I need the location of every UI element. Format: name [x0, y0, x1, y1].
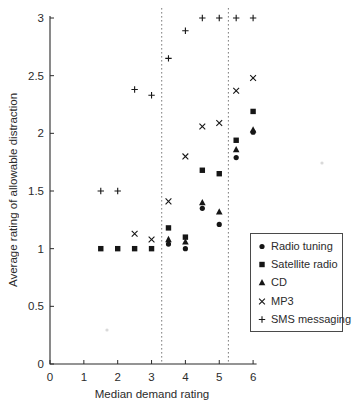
data-point — [98, 246, 103, 251]
data-point — [250, 15, 256, 21]
data-point — [216, 15, 222, 21]
data-point — [183, 154, 189, 160]
data-point — [217, 171, 222, 176]
series-radio-tuning — [166, 130, 256, 252]
data-point — [199, 199, 206, 205]
legend-label: SMS messaging — [271, 313, 351, 325]
data-point — [115, 188, 121, 194]
x-axis-label: Median demand rating — [50, 388, 254, 400]
y-tick-label: 3 — [38, 12, 44, 24]
series-satellite-radio — [98, 109, 256, 252]
y-tick-label: 2 — [38, 127, 44, 139]
data-point — [166, 241, 171, 246]
data-point — [98, 188, 104, 194]
data-point — [148, 92, 154, 98]
data-point — [199, 15, 205, 21]
x-tick-label: 5 — [216, 371, 222, 383]
plot-area: 012345600.511.522.53 — [0, 0, 352, 412]
scan-speck — [105, 328, 108, 331]
data-point — [132, 231, 138, 237]
y-tick-label: 1 — [38, 243, 44, 255]
legend-marker — [259, 262, 264, 267]
data-point — [165, 55, 171, 61]
square-legend-icon — [256, 258, 268, 270]
data-point — [233, 15, 239, 21]
x-cross-legend-icon — [256, 295, 268, 307]
series-cd — [165, 126, 256, 244]
axes — [50, 16, 257, 364]
scan-speck — [320, 161, 323, 164]
x-tick-label: 4 — [182, 371, 189, 383]
legend-label: MP3 — [271, 295, 294, 307]
legend-item: SMS messaging — [256, 311, 342, 326]
data-point — [166, 225, 171, 230]
y-axis-label: Average rating of allowable distraction — [5, 70, 21, 310]
legend-label: Satellite radio — [271, 258, 338, 270]
data-point — [233, 146, 240, 152]
legend-marker — [259, 279, 266, 285]
legend-item: Satellite radio — [256, 257, 342, 272]
data-point — [217, 222, 222, 227]
data-point — [132, 246, 137, 251]
legend-label: Radio tuning — [271, 240, 333, 252]
data-point — [216, 208, 223, 214]
data-point — [233, 88, 239, 94]
series-sms-messaging — [98, 15, 257, 194]
legend-marker — [259, 298, 265, 304]
data-point — [250, 109, 255, 114]
data-point — [165, 236, 172, 242]
legend-marker — [259, 244, 264, 249]
data-point — [216, 120, 222, 126]
circle-legend-icon — [256, 240, 268, 252]
x-tick-label: 1 — [81, 371, 87, 383]
data-point — [131, 86, 137, 92]
legend-item: MP3 — [256, 293, 342, 308]
x-tick-label: 3 — [148, 371, 154, 383]
scatter-chart: 012345600.511.522.53 Average rating of a… — [0, 0, 352, 412]
data-point — [200, 206, 205, 211]
data-point — [199, 124, 205, 130]
legend-marker — [259, 316, 265, 322]
data-point — [166, 198, 172, 204]
legend: Radio tuningSatellite radioCDMP3SMS mess… — [250, 233, 343, 332]
x-tick-label: 6 — [250, 371, 256, 383]
y-tick-label: 0 — [38, 358, 44, 370]
data-point — [115, 246, 120, 251]
data-point — [149, 246, 154, 251]
triangle-legend-icon — [256, 276, 268, 288]
x-tick-label: 0 — [47, 371, 53, 383]
legend-item: CD — [256, 275, 342, 290]
data-point — [183, 246, 188, 251]
legend-label: CD — [271, 276, 287, 288]
data-point — [200, 168, 205, 173]
data-point — [182, 27, 188, 33]
legend-item: Radio tuning — [256, 239, 342, 254]
data-point — [149, 237, 155, 243]
data-point — [250, 126, 257, 132]
data-point — [233, 138, 238, 143]
y-tick-label: 1.5 — [28, 185, 44, 197]
y-tick-label: 0.5 — [28, 300, 44, 312]
x-tick-label: 2 — [114, 371, 120, 383]
data-point — [250, 75, 256, 81]
data-point — [234, 155, 239, 160]
y-tick-label: 2.5 — [28, 70, 44, 82]
plus-legend-icon — [256, 313, 268, 325]
